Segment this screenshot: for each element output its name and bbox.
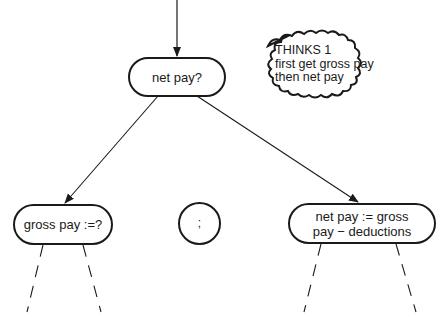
node-label: gross pay :=?: [24, 217, 102, 232]
node-label-line-2: pay − deductions: [313, 224, 412, 239]
node-net-pay-root: net pay?: [128, 57, 226, 97]
node-label: net pay?: [152, 70, 202, 85]
thought-line-2: then net pay: [275, 71, 374, 85]
thought-cloud-text: THINKS 1 first get gross pay then net pa…: [275, 44, 374, 85]
edge-root-to-net-pay-assign: [197, 96, 358, 202]
thought-line-1: first get gross pay: [275, 58, 374, 72]
dashed-branch-right-1: [304, 244, 321, 312]
node-sequence-semicolon: ;: [178, 202, 221, 245]
node-label-line-1: net pay := gross: [316, 209, 409, 224]
dashed-branch-left-2: [83, 245, 101, 312]
node-label: ;: [198, 216, 201, 231]
node-net-pay-assign: net pay := gross pay − deductions: [288, 203, 436, 244]
node-gross-pay-assign: gross pay :=?: [13, 204, 113, 245]
edge-root-to-gross-pay: [65, 96, 158, 203]
diagram-connectors: [0, 0, 446, 328]
thought-title: THINKS 1: [275, 44, 374, 58]
dashed-branch-left-1: [27, 245, 43, 312]
dashed-branch-right-2: [396, 244, 416, 312]
